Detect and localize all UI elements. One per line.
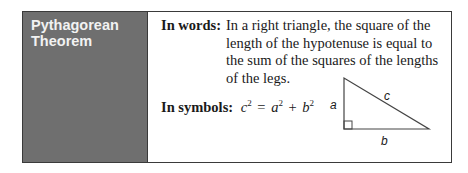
leg-b-label: b <box>381 134 388 148</box>
hypotenuse-c-label: c <box>384 89 390 103</box>
theorem-title-panel: Pythagorean Theorem <box>23 12 148 162</box>
theorem-box: Pythagorean Theorem In words: In a right… <box>22 11 452 163</box>
right-triangle-diagram: a c b <box>148 12 453 162</box>
leg-a-label: a <box>330 98 337 112</box>
theorem-title: Pythagorean Theorem <box>31 17 119 49</box>
theorem-content: In words: In a right triangle, the squar… <box>148 12 451 162</box>
